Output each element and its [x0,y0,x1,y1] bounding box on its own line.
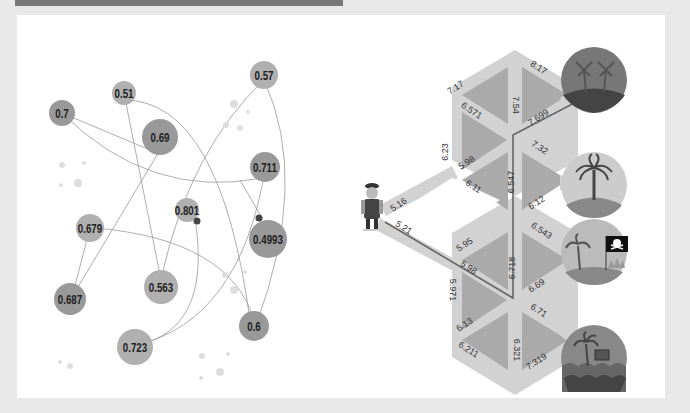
node-value: 0.687 [58,293,82,307]
node-value: 0.7 [55,107,69,121]
node-dot [194,218,201,225]
node-value: 0.711 [253,161,277,175]
left-graph-nodes: 0.70.510.690.570.7110.8010.49930.6790.56… [49,61,287,365]
edge-weight-label: 7.54 [511,96,521,114]
edge-weight-label: 6.23 [440,143,450,161]
node-value: 0.723 [123,341,147,355]
node-value: 0.6 [247,320,261,334]
graph-node: 0.723 [117,329,153,365]
graph-node: 0.6 [239,311,269,341]
node-value: 0.57 [255,69,274,83]
island-treasure [561,325,627,392]
node-value: 0.69 [151,131,170,145]
node-value: 0.801 [175,204,200,218]
edge-weight-label: 6.547 [506,171,516,194]
graph-node: 0.7 [49,100,75,126]
node-value: 0.51 [115,87,134,101]
graph-node: 0.57 [250,61,278,89]
edge-weight-label: 6.321 [512,339,522,362]
edge-weight-label: 5.971 [448,279,458,302]
node-value: 0.4993 [253,233,283,247]
graph-node: 0.711 [250,152,280,182]
island-pirate-flag [561,219,628,285]
graph-node: 0.687 [54,283,86,315]
graph-node: 0.563 [144,270,178,304]
graph-node: 0.679 [76,214,104,242]
island-palm [561,152,627,218]
node-value: 0.563 [149,281,173,295]
graph-scene: 0.70.510.690.570.7110.8010.49930.6790.56… [0,0,690,413]
node-dot [256,215,263,222]
graph-node: 0.4993 [249,220,287,258]
graph-node: 0.51 [112,81,136,105]
left-graph-edges [62,80,285,345]
node-value: 0.679 [78,222,102,236]
edge-weight-label: 6.718 [507,257,517,280]
island-palm-dark [561,47,627,113]
graph-node: 0.69 [142,119,178,155]
